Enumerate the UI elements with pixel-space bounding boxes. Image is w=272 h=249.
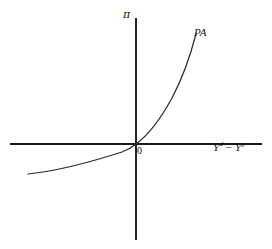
- pa-curve-figure: π Yd−Yp PA 0: [0, 0, 272, 249]
- x-axis-label: Yd−Yp: [213, 142, 245, 153]
- pa-curve-label: PA: [194, 27, 207, 38]
- pa-curve: [28, 34, 196, 174]
- y-axis-label: π: [123, 9, 130, 20]
- origin-label: 0: [137, 146, 142, 156]
- x-axis-label-sup-2: p: [241, 140, 245, 148]
- x-axis-label-minus: −: [223, 141, 235, 153]
- chart-canvas: [0, 0, 272, 249]
